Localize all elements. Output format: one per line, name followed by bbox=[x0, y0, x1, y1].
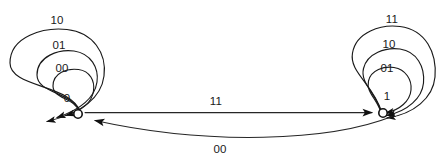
state-node-1[interactable] bbox=[379, 109, 387, 117]
self-loop-right-inner-label: 01 bbox=[380, 62, 393, 74]
transition-0-to-1-label: 11 bbox=[210, 95, 222, 107]
state-node-0[interactable] bbox=[74, 110, 82, 118]
state-label-1: 1 bbox=[384, 90, 390, 102]
self-loop-left-middle bbox=[37, 51, 97, 118]
fsm-diagram: 0 1 00 01 10 01 10 11 11 00 bbox=[0, 0, 447, 161]
self-loop-left-middle-label: 01 bbox=[52, 39, 65, 51]
self-loop-right-middle-label: 10 bbox=[382, 38, 395, 50]
self-loop-left-outer-label: 10 bbox=[50, 14, 63, 26]
self-loop-right-middle bbox=[363, 49, 424, 116]
transition-1-to-0-label: 00 bbox=[213, 143, 226, 155]
transition-1-to-0 bbox=[95, 117, 392, 138]
state-label-0: 0 bbox=[64, 92, 70, 104]
fsm-canvas: 0 1 00 01 10 01 10 11 11 00 bbox=[0, 0, 447, 161]
self-loop-left-inner-label: 00 bbox=[55, 62, 68, 74]
self-loop-right-outer-label: 11 bbox=[386, 13, 398, 25]
